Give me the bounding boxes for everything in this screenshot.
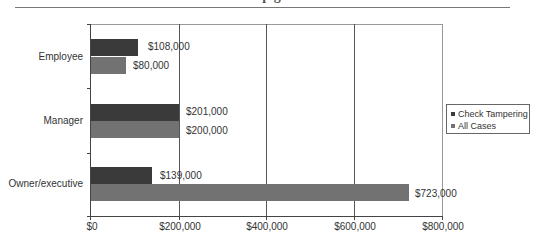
x-tick: [179, 216, 180, 220]
value-label: $200,000: [186, 125, 228, 136]
bar-check-tampering-owner: [91, 167, 152, 184]
legend-label: All Cases: [458, 121, 496, 131]
bar-check-tampering-manager: [91, 104, 179, 121]
x-tick-label: $600,000: [334, 221, 376, 232]
category-label-owner: Owner/executive: [9, 178, 83, 189]
x-tick-label: $0: [86, 221, 97, 232]
y-tick: [87, 24, 91, 25]
bar-check-tampering-employee: [91, 39, 138, 56]
value-label: $139,000: [160, 170, 202, 181]
header-rule: [15, 7, 510, 8]
x-tick-label: $200,000: [159, 221, 201, 232]
chart-legend: Check Tampering All Cases: [446, 104, 530, 134]
bar-all-cases-owner: [91, 184, 409, 201]
category-label-employee: Employee: [39, 51, 83, 62]
y-tick: [87, 216, 91, 217]
y-tick: [87, 88, 91, 89]
x-tick: [442, 216, 443, 220]
value-label: $201,000: [186, 106, 228, 117]
legend-swatch-icon: [451, 124, 455, 128]
x-tick: [354, 216, 355, 220]
legend-label: Check Tampering: [458, 109, 528, 119]
value-label: $108,000: [148, 41, 190, 52]
bar-all-cases-manager: [91, 121, 179, 138]
x-tick: [266, 216, 267, 220]
legend-swatch-icon: [451, 112, 455, 116]
x-tick-label: $400,000: [246, 221, 288, 232]
x-tick-label: $800,000: [422, 221, 464, 232]
value-label: $80,000: [133, 60, 169, 71]
y-tick: [87, 153, 91, 154]
legend-item-all-cases: All Cases: [451, 121, 496, 131]
value-label: $723,000: [415, 188, 457, 199]
chart-title-clipped: p g: [0, 0, 543, 6]
legend-item-check-tampering: Check Tampering: [451, 109, 528, 119]
bar-all-cases-employee: [91, 57, 126, 74]
category-label-manager: Manager: [44, 115, 83, 126]
